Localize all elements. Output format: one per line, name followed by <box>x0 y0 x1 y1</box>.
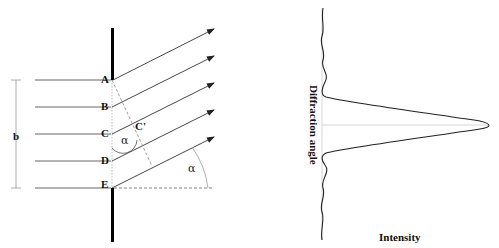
diffracted-ray-b <box>112 56 214 107</box>
y-axis-label: Diffraction angle <box>308 85 320 165</box>
x-axis-label: Intensity <box>379 231 421 243</box>
angle-label-outer: α <box>188 162 196 175</box>
diffracted-ray-a <box>113 29 214 80</box>
diffracted-rays <box>112 29 214 188</box>
intensity-plot: Diffraction angle Intensity <box>308 8 489 243</box>
slit-width-label: b <box>13 130 19 142</box>
point-label-a: A <box>101 73 109 85</box>
point-label-e: E <box>101 178 108 190</box>
intensity-curve <box>321 8 489 240</box>
angle-label-inner: α <box>121 134 129 147</box>
point-label-b: B <box>101 100 109 112</box>
wavefront-dashed-line <box>112 80 152 166</box>
incoming-rays <box>35 80 111 188</box>
slit-wall-top <box>111 28 114 80</box>
point-label-c: C <box>101 127 109 139</box>
diagram-canvas: A B C D E C' b α α Diffraction angle Int… <box>0 0 499 248</box>
slit-diagram: A B C D E C' b α α <box>11 28 214 242</box>
point-label-d: D <box>101 154 109 166</box>
diffracted-ray-c <box>112 83 214 134</box>
point-label-c-prime: C' <box>135 120 146 132</box>
slit-wall-bottom <box>111 188 114 242</box>
